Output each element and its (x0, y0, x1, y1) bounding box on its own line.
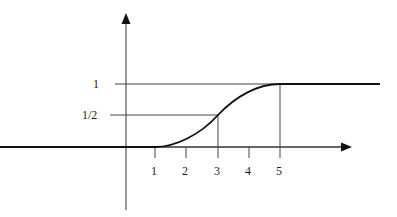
x-axis-arrow-icon (341, 143, 352, 152)
function-diagram: 1 1/2 1 2 3 4 5 (0, 0, 397, 217)
y-axis-arrow-icon (122, 13, 131, 24)
x-label-5: 5 (276, 164, 282, 178)
x-label-3: 3 (214, 164, 220, 178)
y-label-half: 1/2 (82, 108, 97, 122)
x-label-4: 4 (245, 164, 251, 178)
x-label-2: 2 (182, 164, 188, 178)
y-label-one: 1 (93, 77, 99, 91)
x-label-1: 1 (151, 164, 157, 178)
